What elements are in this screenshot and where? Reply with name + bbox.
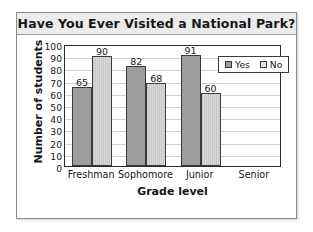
y-axis-tick: 90 — [50, 53, 62, 64]
legend-label: Yes — [235, 59, 250, 70]
legend-label: No — [270, 59, 283, 70]
y-axis-tick: 40 — [50, 114, 62, 125]
bar-value-label: 60 — [205, 83, 217, 94]
y-axis-tick: 30 — [50, 126, 62, 137]
y-axis-tick: 80 — [50, 65, 62, 76]
legend-item-no[interactable]: No — [260, 59, 283, 70]
bar-value-label: 68 — [150, 73, 162, 84]
chart-body: Number of students 010203040506070809010… — [17, 35, 296, 218]
bar-sophomore-yes — [126, 66, 146, 166]
x-axis-tick-junior: Junior — [186, 169, 213, 180]
y-axis-tick: 0 — [56, 163, 62, 174]
bar-sophomore-no — [146, 83, 166, 166]
x-axis-tick-senior: Senior — [239, 169, 270, 180]
x-axis-label: Grade level — [64, 185, 281, 198]
legend-swatch-icon — [260, 61, 267, 68]
bar-value-label: 82 — [130, 56, 142, 67]
bar-value-label: 65 — [76, 77, 88, 88]
y-axis-tick: 100 — [44, 41, 62, 52]
y-axis-tick: 10 — [50, 150, 62, 161]
y-axis-tick: 50 — [50, 102, 62, 113]
page-title: Have You Ever Visited a National Park? — [18, 16, 296, 31]
y-axis-tick: 60 — [50, 89, 62, 100]
chart-card: Have You Ever Visited a National Park? N… — [16, 12, 297, 219]
legend-swatch-icon — [225, 61, 232, 68]
y-axis-label: Number of students — [32, 44, 45, 164]
bar-freshman-yes — [72, 87, 92, 166]
bar-junior-no — [201, 93, 221, 166]
bar-freshman-no — [92, 56, 112, 166]
x-axis-tick-sophomore: Sophomore — [118, 169, 173, 180]
bar-junior-yes — [181, 55, 201, 166]
bar-value-label: 91 — [185, 45, 197, 56]
chart-title-bar: Have You Ever Visited a National Park? — [17, 13, 296, 35]
x-axis-tick-freshman: Freshman — [68, 169, 115, 180]
y-axis-tick: 20 — [50, 138, 62, 149]
y-axis-tick: 70 — [50, 77, 62, 88]
legend-item-yes[interactable]: Yes — [225, 59, 250, 70]
bar-value-label: 90 — [96, 46, 108, 57]
chart-legend: YesNo — [218, 56, 289, 73]
chart-page: Have You Ever Visited a National Park? N… — [0, 0, 313, 232]
